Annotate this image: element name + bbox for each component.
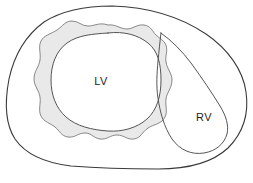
lv-label: LV (94, 75, 108, 87)
heart-cross-section-diagram: LV RV (0, 0, 253, 183)
heart-diagram-canvas: LV RV (0, 0, 253, 183)
rv-label: RV (196, 111, 212, 123)
